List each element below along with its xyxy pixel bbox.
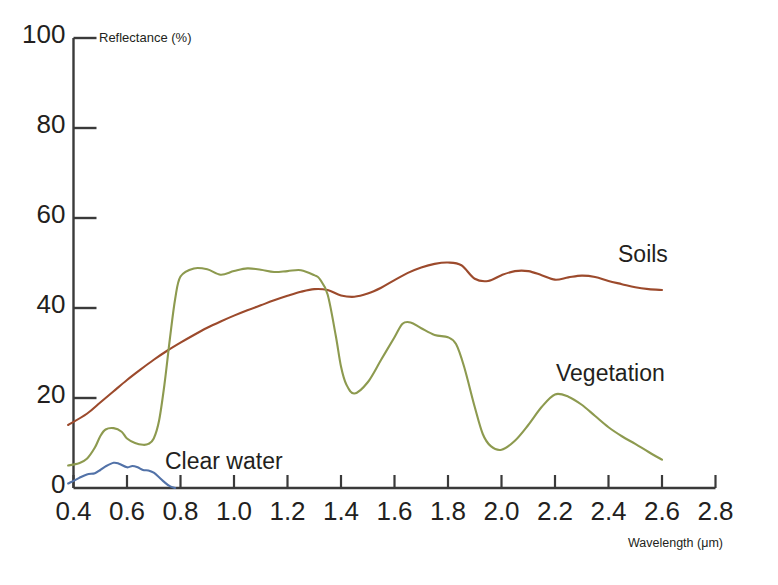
x-tick-label: 1.4	[311, 496, 371, 527]
x-tick-label: 2.4	[579, 496, 639, 527]
x-tick-label: 2.2	[525, 496, 585, 527]
x-tick-label: 1.0	[204, 496, 264, 527]
x-tick-label: 2.8	[686, 496, 746, 527]
series-label-soils: Soils	[618, 241, 668, 268]
x-tick-label: 0.8	[151, 496, 211, 527]
x-tick-label: 1.6	[365, 496, 425, 527]
x-tick-label: 2.0	[472, 496, 532, 527]
x-tick-label: 0.6	[97, 496, 157, 527]
x-axis-title: Wavelength (μm)	[628, 536, 723, 550]
series-line-soils	[68, 263, 662, 425]
y-tick-label: 100	[4, 19, 66, 50]
x-tick-label: 2.6	[632, 496, 692, 527]
x-tick-label: 1.2	[258, 496, 318, 527]
y-tick-label: 60	[4, 199, 66, 230]
y-axis-title: Reflectance (%)	[99, 30, 191, 45]
y-tick-label: 80	[4, 109, 66, 140]
y-tick-label: 40	[4, 289, 66, 320]
x-tick-label: 1.8	[418, 496, 478, 527]
series-label-clear-water: Clear water	[165, 448, 283, 475]
spectral-reflectance-chart: Reflectance (%) Wavelength (μm) Soils Ve…	[0, 0, 778, 585]
series-label-vegetation: Vegetation	[556, 360, 665, 387]
series-line-clear-water	[68, 463, 175, 488]
x-tick-label: 0.4	[44, 496, 104, 527]
y-tick-label: 20	[4, 379, 66, 410]
